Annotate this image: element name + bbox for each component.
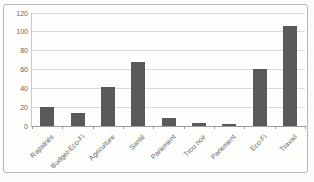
x-axis-label: Travail [244, 133, 299, 182]
y-axis-tick-label: 20 [20, 104, 28, 111]
y-axis-tick-label: 60 [20, 66, 28, 73]
x-axis-tick [123, 126, 124, 129]
x-axis-tick [214, 126, 215, 129]
chart-frame: 020406080100120 RapatriésBudget-Eco-FiAg… [3, 4, 308, 173]
y-axis-tick-label: 100 [16, 28, 28, 35]
x-axis-tick [275, 126, 276, 129]
bar [283, 26, 297, 126]
bar [192, 123, 206, 126]
bar [162, 118, 176, 126]
x-axis-tick [93, 126, 94, 129]
x-axis-tick [184, 126, 185, 129]
x-axis-tick [32, 126, 33, 129]
x-axis-tick [305, 126, 306, 129]
gridline [32, 31, 305, 32]
bar [71, 113, 85, 126]
bar [253, 69, 267, 126]
gridline [32, 50, 305, 51]
y-axis-tick-label: 40 [20, 85, 28, 92]
bar [131, 62, 145, 126]
y-axis-tick-label: 0 [24, 123, 28, 130]
y-axis: 020406080100120 [8, 13, 28, 126]
bar [40, 107, 54, 126]
bar [101, 87, 115, 126]
y-axis-tick-label: 120 [16, 10, 28, 17]
gridline [32, 13, 305, 14]
x-axis-tick [244, 126, 245, 129]
plot-area: RapatriésBudget-Eco-FiAgricultureSantéPa… [31, 13, 305, 127]
x-axis-tick [62, 126, 63, 129]
y-axis-tick-label: 80 [20, 47, 28, 54]
page: { "chart_data": { "type": "bar", "catego… [0, 0, 314, 182]
bar [222, 124, 236, 126]
x-axis-tick [153, 126, 154, 129]
